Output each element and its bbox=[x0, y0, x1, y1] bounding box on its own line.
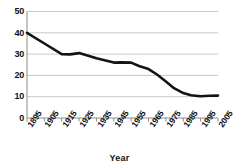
x-tick-label-1985: 1985 bbox=[182, 109, 200, 129]
x-tick-label-1965: 1965 bbox=[148, 109, 166, 129]
x-axis-title: Year bbox=[0, 153, 239, 163]
x-tick-label-1895: 1895 bbox=[26, 109, 44, 129]
x-tick-label-1995: 1995 bbox=[200, 109, 218, 129]
chart-container: 50 40 30 20 10 0 1895 1905 1915 1925 193… bbox=[0, 0, 239, 165]
x-tick-label-1925: 1925 bbox=[78, 109, 96, 129]
x-tick-label-1945: 1945 bbox=[113, 109, 131, 129]
x-tick-label-1935: 1935 bbox=[96, 109, 114, 129]
x-tick-label-1975: 1975 bbox=[165, 109, 183, 129]
x-tick-label-1915: 1915 bbox=[61, 109, 79, 129]
x-tick-label-2005: 2005 bbox=[217, 109, 235, 129]
x-tick-label-1955: 1955 bbox=[130, 109, 148, 129]
x-axis-labels: 1895 1905 1915 1925 1935 1945 1955 1965 … bbox=[0, 0, 239, 165]
x-tick-label-1905: 1905 bbox=[43, 109, 61, 129]
